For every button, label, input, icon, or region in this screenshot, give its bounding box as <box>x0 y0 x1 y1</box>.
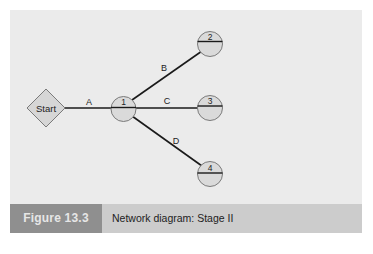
network-diagram: Start 1 2 3 <box>10 10 362 204</box>
node-3-label: 3 <box>208 96 213 106</box>
start-node-label: Start <box>36 103 56 114</box>
node-2: 2 <box>198 32 223 57</box>
edge-a-label: A <box>86 97 92 107</box>
node-3: 3 <box>198 96 223 121</box>
node-4: 4 <box>198 162 223 187</box>
start-node: Start <box>27 89 65 127</box>
node-4-label: 4 <box>208 163 213 173</box>
edge-d-label: D <box>173 136 180 146</box>
edge-b-label: B <box>161 63 167 73</box>
edge-d <box>132 116 202 166</box>
edge-c-label: C <box>164 96 171 106</box>
edge-b <box>132 51 202 100</box>
figure: Start 1 2 3 <box>10 10 362 233</box>
diagram-panel: Start 1 2 3 <box>10 10 362 204</box>
node-2-label: 2 <box>208 32 213 42</box>
caption-bar: Figure 13.3 Network diagram: Stage II <box>10 204 362 233</box>
figure-caption: Network diagram: Stage II <box>112 204 233 233</box>
figure-number-label: Figure 13.3 <box>10 204 102 233</box>
node-1-label: 1 <box>121 97 126 107</box>
node-1: 1 <box>111 97 136 122</box>
